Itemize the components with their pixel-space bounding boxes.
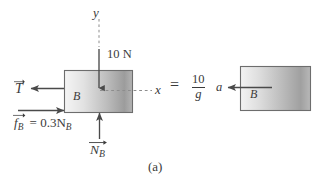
equals-sign: = bbox=[170, 77, 179, 93]
x-axis-label: x bbox=[155, 83, 161, 96]
applied-force-label: 10 N bbox=[107, 48, 132, 61]
acceleration-label: a bbox=[216, 81, 222, 94]
right-block-label: B bbox=[250, 88, 257, 100]
friction-equation-subscript: B bbox=[66, 122, 72, 132]
left-block-label: B bbox=[73, 90, 80, 102]
normal-subscript: B bbox=[99, 148, 105, 159]
normal-symbol: N bbox=[90, 142, 99, 157]
normal-force-label: NB bbox=[90, 143, 105, 158]
friction-equation: = 0.3N bbox=[30, 115, 66, 130]
y-axis-label: y bbox=[93, 6, 99, 19]
mass-denominator: g bbox=[192, 88, 205, 101]
figure-caption: (a) bbox=[148, 160, 162, 173]
mass-numerator: 10 bbox=[192, 73, 205, 86]
friction-label: fB = 0.3NB bbox=[14, 116, 72, 132]
mass-fraction: 10 g bbox=[192, 73, 205, 101]
tension-label: T bbox=[15, 82, 23, 96]
figure-canvas: y x 10 N T B fB = 0.3 bbox=[0, 0, 321, 188]
friction-subscript: B bbox=[18, 122, 24, 132]
